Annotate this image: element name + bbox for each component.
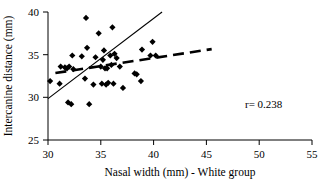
data-point: [96, 30, 102, 36]
data-point: [69, 52, 75, 58]
data-point: [109, 24, 115, 30]
data-point: [82, 75, 88, 81]
x-axis-title: Nasal width (mm) - White group: [105, 166, 256, 179]
data-point: [83, 15, 89, 21]
data-point: [90, 81, 96, 87]
data-point: [57, 81, 63, 87]
data-point: [149, 39, 155, 45]
x-tick-label-30: 30: [43, 148, 55, 160]
y-tick-label-35: 35: [28, 49, 40, 61]
data-point: [92, 54, 98, 60]
data-point: [101, 47, 107, 53]
data-point: [86, 101, 92, 107]
chart-canvas: 25 30 35 40 30 35 40 45 50 55 Nasal widt…: [0, 0, 324, 184]
data-point: [110, 81, 116, 87]
data-point: [84, 45, 90, 51]
x-tick-label-50: 50: [254, 148, 266, 160]
y-tick-label-30: 30: [28, 91, 40, 103]
x-tick-label-40: 40: [148, 148, 160, 160]
data-point: [117, 64, 123, 70]
data-point: [79, 53, 85, 59]
data-point: [100, 57, 106, 63]
dashed-regression-line: [55, 49, 211, 73]
correlation-annotation: r= 0.238: [245, 98, 283, 110]
x-tick-label-35: 35: [95, 148, 107, 160]
data-point: [139, 46, 145, 52]
y-tick-label-25: 25: [28, 134, 40, 146]
y-axis-title: Intercanine distance (mm): [2, 15, 15, 136]
y-tick-label-40: 40: [28, 6, 40, 18]
y-axis-ticks: [43, 12, 48, 140]
x-tick-label-45: 45: [201, 148, 213, 160]
data-point: [108, 62, 114, 68]
x-axis-ticks: [48, 140, 312, 145]
data-point: [120, 85, 126, 91]
scatter-plot-figure: 25 30 35 40 30 35 40 45 50 55 Nasal widt…: [0, 0, 324, 184]
x-tick-label-55: 55: [307, 148, 319, 160]
data-point: [138, 78, 144, 84]
